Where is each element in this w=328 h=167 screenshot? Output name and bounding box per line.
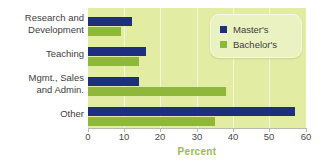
category-label-teaching: Teaching (0, 48, 84, 60)
legend-item-bachelors: Bachelor's (220, 38, 277, 50)
legend-swatch-bachelors-icon (220, 41, 227, 48)
plot-area: Master's Bachelor's (88, 8, 306, 128)
bar-masters-teaching (88, 47, 146, 56)
category-label-other: Other (0, 108, 84, 120)
legend-swatch-masters-icon (220, 26, 227, 33)
x-axis-title: Percent (88, 146, 306, 157)
bar-bachelors-other (88, 117, 215, 126)
legend: Master's Bachelor's (210, 14, 302, 58)
bar-masters-mgmt-sales-and-admin (88, 77, 139, 86)
category-label-research-and-development: Research and Development (0, 12, 84, 35)
legend-item-masters: Master's (220, 23, 269, 35)
bar-masters-research-and-development (88, 17, 132, 26)
x-tick-label-0: 0 (76, 131, 100, 142)
x-tick-label-20: 20 (148, 131, 172, 142)
bar-masters-other (88, 107, 295, 116)
x-tick-label-50: 50 (257, 131, 281, 142)
bar-bachelors-mgmt-sales-and-admin (88, 87, 226, 96)
legend-label-masters: Master's (233, 24, 269, 35)
x-tick-label-40: 40 (221, 131, 245, 142)
category-label-mgmt-sales-and-admin: Mgmt., Sales and Admin. (0, 72, 84, 95)
x-tick-label-30: 30 (185, 131, 209, 142)
bar-bachelors-research-and-development (88, 27, 121, 36)
x-tick-label-60: 60 (294, 131, 318, 142)
bar-bachelors-teaching (88, 57, 139, 66)
bar-chart: Master's Bachelor's Research and Develop… (0, 0, 328, 167)
x-tick-label-10: 10 (112, 131, 136, 142)
legend-label-bachelors: Bachelor's (233, 39, 277, 50)
